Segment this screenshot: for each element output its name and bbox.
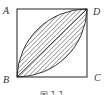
vertex-label-c: C xyxy=(94,72,101,83)
vertex-label-d: D xyxy=(92,6,101,17)
vertex-label-a: A xyxy=(2,5,10,16)
figure-caption: 图 1-1 xyxy=(40,91,64,95)
vertex-label-b: B xyxy=(3,74,9,85)
geometry-figure: A D B C 图 1-1 xyxy=(0,0,105,95)
